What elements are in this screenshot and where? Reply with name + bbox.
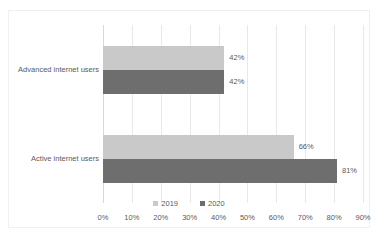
x-tick-label: 10% <box>124 213 139 222</box>
x-tick-label: 30% <box>182 213 197 222</box>
bar-value-label: 81% <box>337 159 357 183</box>
legend-label: 2019 <box>161 199 178 208</box>
x-tick-label: 0% <box>98 213 109 222</box>
x-axis-tick-labels: 0%10%20%30%40%50%60%70%80%90% <box>103 213 363 227</box>
bar-group: 66%81% <box>103 135 363 183</box>
bar-value-label: 42% <box>224 70 244 94</box>
x-tick-label: 40% <box>211 213 226 222</box>
x-tick-label: 70% <box>298 213 313 222</box>
category-axis: Advanced internet usersActive internet u… <box>15 25 99 203</box>
x-tick-label: 60% <box>269 213 284 222</box>
bar-2020-0[interactable] <box>103 70 224 94</box>
x-tick-label: 90% <box>355 213 370 222</box>
x-tick-label: 80% <box>327 213 342 222</box>
gridline-90% <box>363 25 364 203</box>
bar-group: 42%42% <box>103 46 363 94</box>
legend-swatch-icon <box>153 201 158 206</box>
bar-value-label: 66% <box>294 135 314 159</box>
bar-2019-0[interactable] <box>103 46 224 70</box>
category-label: Active internet users <box>31 154 99 163</box>
category-label: Advanced internet users <box>18 65 99 74</box>
x-tick-label: 20% <box>153 213 168 222</box>
bar-2019-1[interactable] <box>103 135 294 159</box>
plot-area: 42%42%66%81% <box>103 25 363 203</box>
chart-container: Advanced internet usersActive internet u… <box>8 10 370 228</box>
bar-2020-1[interactable] <box>103 159 337 183</box>
bar-value-label: 42% <box>224 46 244 70</box>
legend-item-2020[interactable]: 2020 <box>200 199 225 208</box>
legend-item-2019[interactable]: 2019 <box>153 199 178 208</box>
legend-label: 2020 <box>208 199 225 208</box>
x-tick-label: 50% <box>240 213 255 222</box>
legend-swatch-icon <box>200 201 205 206</box>
chart-legend: 20192020 <box>9 199 369 208</box>
